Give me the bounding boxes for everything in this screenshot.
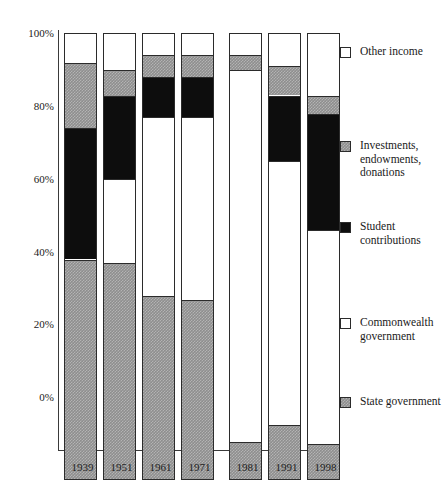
segment-divider [269, 425, 300, 426]
segment-commonwealth-government [308, 230, 339, 443]
segment-commonwealth-government [104, 179, 135, 263]
legend-label-student-contributions: Student contributions [360, 220, 445, 247]
segment-divider [143, 117, 174, 118]
segment-divider [308, 114, 339, 115]
segment-student-contributions [104, 96, 135, 180]
segment-other-income [269, 34, 300, 67]
segment-investments [65, 63, 96, 129]
y-tick-label-60: 60% [34, 174, 54, 185]
segment-divider [182, 77, 213, 78]
bar-1961[interactable] [142, 33, 175, 481]
segment-divider [143, 296, 174, 297]
segment-other-income [65, 34, 96, 63]
segment-other-income [230, 34, 261, 56]
segment-divider [230, 70, 261, 71]
segment-divider [182, 55, 213, 56]
bar-1971[interactable] [181, 33, 214, 481]
legend-swatch-grey-icon [340, 141, 351, 152]
segment-commonwealth-government [143, 117, 174, 296]
segment-commonwealth-government [230, 70, 261, 442]
segment-divider [104, 263, 135, 264]
segment-investments [143, 55, 174, 77]
segment-divider [269, 66, 300, 67]
legend-label-investments: Investments, endowments, donations [360, 139, 445, 180]
segment-investments [104, 70, 135, 96]
segment-divider [65, 260, 96, 261]
segment-other-income [143, 34, 174, 56]
segment-divider [104, 70, 135, 71]
segment-divider [230, 442, 261, 443]
legend-label-commonwealth-government: Commonwealth government [360, 316, 445, 343]
y-tick-label-100: 100% [28, 28, 54, 39]
segment-commonwealth-government [182, 117, 213, 299]
plot-area [58, 30, 336, 451]
legend-swatch-white-icon [340, 47, 351, 58]
segment-divider [143, 55, 174, 56]
segment-other-income [104, 34, 135, 71]
segment-divider [104, 179, 135, 180]
segment-commonwealth-government [269, 161, 300, 425]
segment-divider [143, 77, 174, 78]
segment-divider [230, 55, 261, 56]
y-tick-label-80: 80% [34, 101, 54, 112]
x-tick-label-1971: 1971 [177, 461, 222, 473]
y-tick-label-0: 0% [39, 392, 54, 403]
bar-1998[interactable] [307, 33, 340, 481]
bar-1951[interactable] [103, 33, 136, 481]
legend-label-other-income: Other income [360, 45, 445, 59]
segment-other-income [182, 34, 213, 56]
segment-student-contributions [269, 96, 300, 162]
segment-divider [269, 161, 300, 162]
chart-legend: Other income Investments, endowments, do… [340, 0, 445, 496]
segment-student-contributions [308, 114, 339, 231]
y-tick-label-40: 40% [34, 247, 54, 258]
segment-student-contributions [143, 77, 174, 117]
segment-divider [182, 300, 213, 301]
segment-divider [308, 444, 339, 445]
segment-investments [182, 55, 213, 77]
segment-divider [308, 96, 339, 97]
y-tick-label-20: 20% [34, 319, 54, 330]
bar-1991[interactable] [268, 33, 301, 481]
segment-state-government [143, 296, 174, 480]
segment-state-government [65, 260, 96, 481]
legend-swatch-grey-icon [340, 397, 351, 408]
segment-state-government [104, 263, 135, 480]
bar-1981[interactable] [229, 33, 262, 481]
segment-investments [230, 55, 261, 70]
segment-student-contributions [182, 77, 213, 117]
segment-divider [65, 63, 96, 64]
y-axis-labels: 100% 80% 60% 40% 20% 0% [8, 0, 54, 496]
legend-swatch-black-icon [340, 222, 351, 233]
legend-label-state-government: State government [360, 395, 445, 409]
segment-state-government [182, 300, 213, 480]
segment-divider [104, 96, 135, 97]
segment-other-income [308, 34, 339, 96]
chart-root: 100% 80% 60% 40% 20% 0% [0, 0, 445, 496]
legend-swatch-white-icon [340, 318, 351, 329]
segment-divider [182, 117, 213, 118]
segment-divider [65, 128, 96, 129]
segment-divider [308, 230, 339, 231]
bar-1939[interactable] [64, 33, 97, 481]
segment-divider [269, 96, 300, 97]
segment-student-contributions [65, 128, 96, 259]
segment-investments [308, 96, 339, 114]
segment-investments [269, 66, 300, 95]
